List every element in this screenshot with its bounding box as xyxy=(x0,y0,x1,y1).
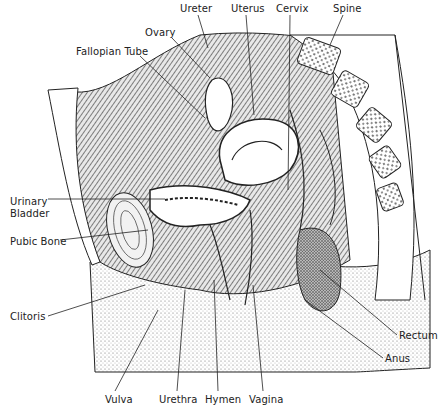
label-urinary-bladder-line2: Bladder xyxy=(10,208,49,219)
label-clitoris: Clitoris xyxy=(10,311,45,322)
label-anus: Anus xyxy=(385,353,410,364)
label-hymen: Hymen xyxy=(205,394,241,405)
label-vagina: Vagina xyxy=(249,394,283,405)
label-pubic-bone: Pubic Bone xyxy=(10,236,66,247)
label-fallopian-tube: Fallopian Tube xyxy=(76,46,148,57)
label-urinary-bladder-line1: Urinary xyxy=(10,196,47,207)
anatomy-diagram xyxy=(0,0,439,409)
label-urethra: Urethra xyxy=(159,394,198,405)
label-ovary: Ovary xyxy=(145,27,175,38)
label-uterus: Uterus xyxy=(231,3,265,14)
label-vulva: Vulva xyxy=(105,394,133,405)
label-ureter: Ureter xyxy=(180,3,212,14)
label-spine: Spine xyxy=(333,3,361,14)
label-cervix: Cervix xyxy=(276,3,308,14)
label-rectum: Rectum xyxy=(399,330,438,341)
